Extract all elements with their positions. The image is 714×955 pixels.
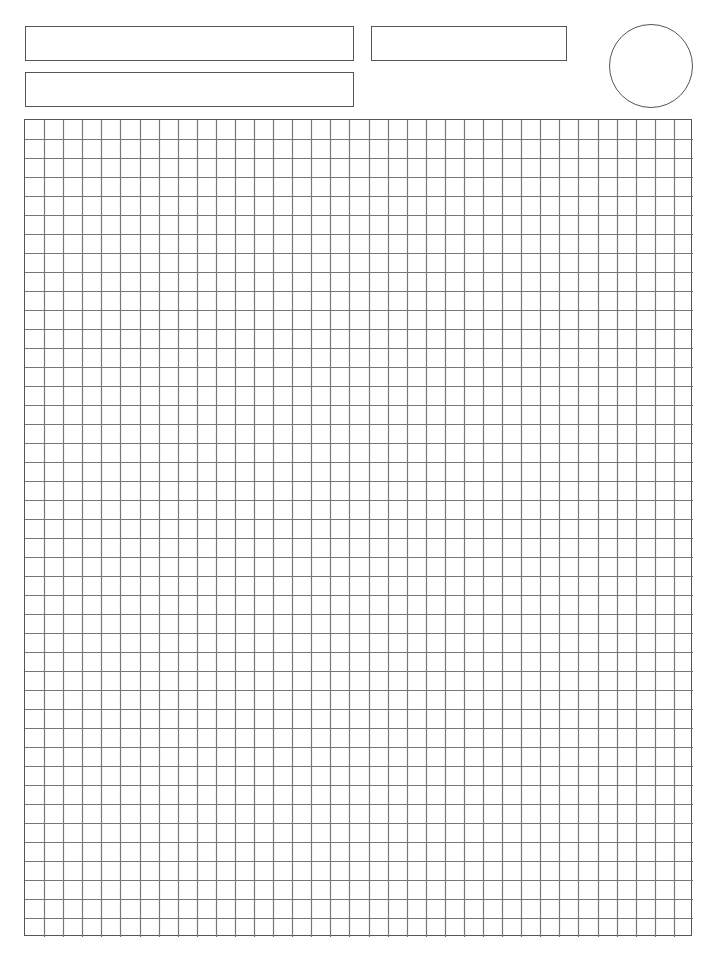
header-field-top-left[interactable] bbox=[25, 26, 354, 61]
header-field-top-right[interactable] bbox=[371, 26, 567, 61]
header-field-bottom-left[interactable] bbox=[25, 72, 354, 107]
graph-grid[interactable] bbox=[24, 119, 692, 936]
header-circle[interactable] bbox=[609, 24, 693, 108]
grid-lines bbox=[25, 120, 693, 937]
